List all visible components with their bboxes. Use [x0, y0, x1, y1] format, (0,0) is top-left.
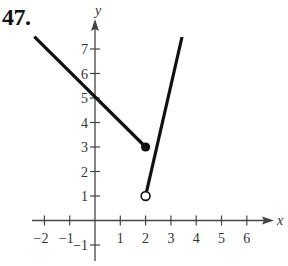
y-axis-label: y	[93, 3, 102, 18]
x-tick-label: 6	[243, 231, 250, 246]
y-tick-label: 6	[81, 67, 88, 82]
y-tick-label: 4	[81, 116, 88, 131]
open-dot-marker	[141, 192, 150, 201]
x-tick-label: 4	[193, 231, 200, 246]
y-tick-label: 7	[81, 42, 88, 57]
closed-dot-marker	[141, 142, 150, 151]
y-tick-label: −1	[73, 238, 88, 253]
x-tick-label: −1	[59, 231, 74, 246]
x-axis-label: x	[276, 213, 284, 228]
x-tick-label: 5	[218, 231, 225, 246]
x-tick-label: 1	[117, 231, 124, 246]
piecewise-function-graph: −2 −1 1 2 3 4 5 6 x −1 1 2 3 4 5 6 7 y	[0, 0, 288, 266]
x-tick-label: 2	[142, 231, 149, 246]
x-axis: −2 −1 1 2 3 4 5 6 x	[32, 213, 284, 246]
y-axis: −1 1 2 3 4 5 6 7 y	[73, 3, 102, 261]
y-tick-label: 5	[81, 91, 88, 106]
right-piece-line	[147, 37, 182, 192]
y-tick-label: 2	[81, 165, 88, 180]
x-tick-label: 3	[167, 231, 174, 246]
y-tick-label: 3	[81, 140, 88, 155]
x-tick-label: −2	[33, 231, 48, 246]
left-piece-line	[34, 37, 145, 147]
y-tick-label: 1	[81, 189, 88, 204]
